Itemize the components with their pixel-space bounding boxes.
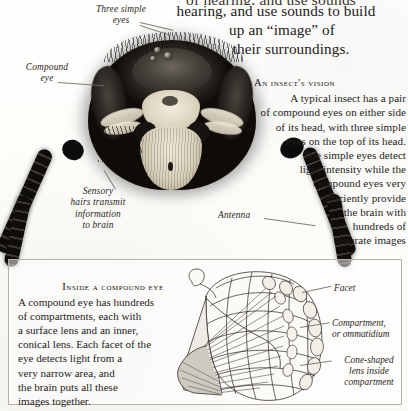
vertex-region bbox=[132, 48, 212, 90]
intro-line-1: hearing, and use sounds to build bbox=[177, 2, 376, 19]
simple-eye-icon bbox=[150, 56, 156, 61]
vision-line: light intensity while the bbox=[300, 163, 406, 175]
vision-line: eyes on the top of its head. bbox=[286, 135, 406, 147]
label-sensory-hairs: Sensory hairs transmit information to br… bbox=[58, 186, 138, 232]
inside-line: the brain puts all these bbox=[18, 381, 118, 393]
vision-line: The simple eyes detect bbox=[304, 149, 406, 161]
label-line: eyes bbox=[113, 15, 130, 25]
simple-eye-icon bbox=[164, 52, 172, 59]
label-facet: Facet bbox=[334, 283, 402, 294]
vision-line: A typical insect has a pair bbox=[290, 92, 406, 104]
label-line: Compound bbox=[26, 62, 68, 72]
inside-line: a surface lens and an inner, bbox=[18, 324, 138, 336]
vision-text-block: An insect's vision A typical insect has … bbox=[248, 76, 406, 247]
label-compound-eye: Compound eye bbox=[10, 62, 84, 85]
label-line: Three simple bbox=[96, 4, 146, 14]
vision-heading: An insect's vision bbox=[254, 76, 406, 90]
clypeus-notch bbox=[162, 96, 178, 106]
label-compartment: Compartment, or ommatidium bbox=[332, 318, 408, 340]
book-page: of hearing, and use sounds hearing, and … bbox=[0, 0, 408, 411]
inside-line: conical lens. Each facet of the bbox=[18, 338, 151, 350]
label-line: information bbox=[75, 209, 121, 219]
label-line: Antenna bbox=[218, 210, 250, 220]
inside-line: A compound eye has hundreds bbox=[18, 296, 154, 308]
vision-line: the brain with bbox=[344, 206, 406, 218]
insect-head-photo bbox=[88, 18, 256, 200]
vision-line: separate images bbox=[335, 234, 406, 246]
vision-line: of compound eyes on either side bbox=[261, 106, 406, 118]
label-line: lens inside bbox=[349, 366, 389, 376]
label-line: to brain bbox=[82, 220, 113, 230]
vision-line: compound eyes very bbox=[313, 177, 406, 189]
label-line: eye bbox=[41, 73, 54, 83]
compound-eye-cutaway-diagram bbox=[176, 262, 328, 408]
vision-line: of its head, with three simple bbox=[276, 121, 406, 133]
label-line: compartment bbox=[344, 377, 393, 387]
inside-line: eye detects light from a bbox=[18, 352, 122, 364]
inside-line: very narrow area, and bbox=[18, 367, 115, 379]
label-line: Sensory bbox=[83, 186, 114, 196]
vision-line: efficiently provide bbox=[323, 192, 406, 204]
label-line: or ommatidium bbox=[332, 329, 390, 339]
simple-eye-icon bbox=[154, 47, 161, 53]
sensory-hairs bbox=[98, 126, 142, 162]
label-line: Cone-shaped bbox=[344, 355, 393, 365]
inside-line: images together. bbox=[18, 395, 91, 407]
label-line: hairs transmit bbox=[71, 197, 126, 207]
vision-line: hundreds of bbox=[353, 220, 406, 232]
label-line: Facet bbox=[334, 283, 355, 293]
inside-line: of compartments, each with bbox=[18, 310, 141, 322]
dark-spot bbox=[168, 162, 173, 171]
label-line: Compartment, bbox=[332, 318, 386, 328]
label-cone-lens: Cone-shaped lens inside compartment bbox=[334, 355, 404, 389]
